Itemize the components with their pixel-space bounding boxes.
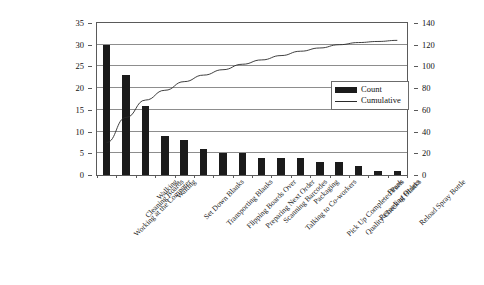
pareto-chart: 05101520253035 020406080100120140 Count …: [0, 0, 484, 285]
category-label: Reload Spray Bottle: [418, 178, 467, 227]
x-axis-category-labels: Working at the ComputerCleaning BoardsWa…: [0, 0, 484, 285]
